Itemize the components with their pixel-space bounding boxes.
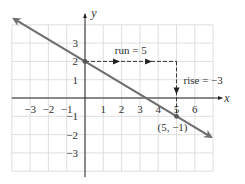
y-tick-label: −1 — [66, 110, 78, 122]
rise-arrow-icon — [174, 88, 180, 95]
y-tick-label: −3 — [66, 147, 78, 159]
x-axis-label: x — [223, 91, 230, 105]
rise-label: rise = −3 — [184, 74, 224, 86]
x-tick-label: −2 — [43, 103, 55, 115]
run-arrow-icon — [113, 58, 120, 64]
graph-line — [14, 19, 212, 138]
x-tick-label: 6 — [192, 103, 198, 115]
y-tick-label: −2 — [66, 129, 78, 141]
x-tick-label: 3 — [137, 103, 143, 115]
x-tick-label: 1 — [101, 103, 107, 115]
y-tick-label: 1 — [73, 74, 79, 86]
slope-graph: xy−3−2−1123456321−1−2−3run = 5rise = −3(… — [0, 0, 245, 184]
data-point — [174, 114, 179, 119]
point-label: (5, −1) — [157, 121, 187, 134]
y-tick-label: 3 — [73, 37, 79, 49]
run-arrow-icon — [145, 58, 152, 64]
x-tick-label: 2 — [119, 103, 125, 115]
data-point — [83, 59, 88, 64]
x-tick-label: −3 — [24, 103, 36, 115]
y-axis-label: y — [90, 6, 97, 20]
run-label: run = 5 — [115, 44, 147, 56]
